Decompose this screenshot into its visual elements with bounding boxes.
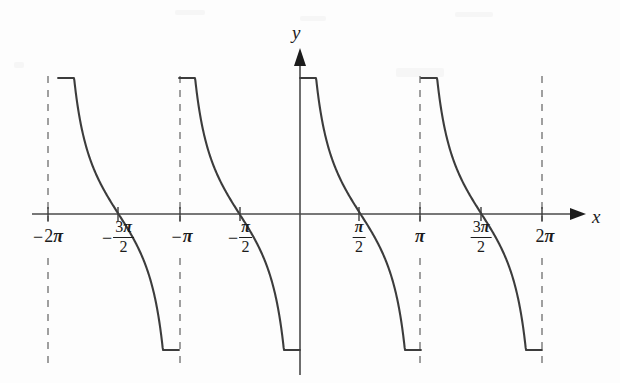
pi-symbol: π xyxy=(355,218,364,235)
pi-symbol: π xyxy=(481,218,490,235)
minus-sign: − xyxy=(228,228,238,249)
tick-label--pi: −π xyxy=(172,226,193,248)
axis-group xyxy=(32,48,586,375)
fraction-denominator: 2 xyxy=(113,239,134,256)
minus-sign: − xyxy=(172,227,182,248)
cotangent-graph xyxy=(0,0,620,383)
pi-symbol: π xyxy=(415,226,425,246)
figure-canvas: y x −2π − 3π 2 −π − π 2 π 2 π 3π xyxy=(0,0,620,383)
y-axis-arrowhead xyxy=(294,48,306,66)
tick-label-2pi: 2π xyxy=(536,226,555,247)
pi-symbol: π xyxy=(123,218,132,235)
fraction-numerator: 3π xyxy=(113,219,134,236)
fraction-denominator: 2 xyxy=(353,239,366,256)
pi-symbol: π xyxy=(241,218,250,235)
pi-symbol: π xyxy=(53,226,63,246)
y-axis-label: y xyxy=(292,22,300,44)
fraction: 3π 2 xyxy=(471,219,492,256)
tick-label-3pi-over-2: 3π 2 xyxy=(471,220,492,257)
tick-label-pi: π xyxy=(415,226,425,247)
fraction-numerator: 3π xyxy=(471,219,492,236)
tick-label-pi-over-2: π 2 xyxy=(353,220,366,257)
x-axis-arrowhead xyxy=(570,208,586,220)
tick-number: 2 xyxy=(44,226,53,246)
fraction: π 2 xyxy=(353,219,366,256)
fraction-numerator: π xyxy=(353,219,366,236)
fraction-denominator: 2 xyxy=(471,239,492,256)
tick-label--2pi: −2π xyxy=(33,226,63,248)
pi-symbol: π xyxy=(545,226,555,246)
tick-label--pi-over-2: − π 2 xyxy=(228,220,252,257)
fraction-denominator: 2 xyxy=(239,239,252,256)
fraction: 3π 2 xyxy=(113,219,134,256)
tick-number: 2 xyxy=(536,226,545,246)
minus-sign: − xyxy=(33,227,43,248)
fraction-numerator: π xyxy=(239,219,252,236)
x-axis-label: x xyxy=(592,206,600,228)
minus-sign: − xyxy=(102,228,112,249)
fraction: π 2 xyxy=(239,219,252,256)
pi-symbol: π xyxy=(183,226,193,246)
tick-label--3pi-over-2: − 3π 2 xyxy=(102,220,134,257)
